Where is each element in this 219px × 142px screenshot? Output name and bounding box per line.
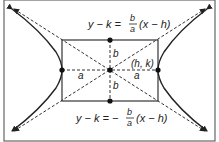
label-a-left: a <box>78 70 84 81</box>
upper-equation: y − k = b a (x − h) <box>87 13 171 34</box>
label-b-bottom: b <box>113 80 119 91</box>
lower-eq-rhs: (x − h) <box>136 112 168 124</box>
top-covertex <box>107 37 112 42</box>
lower-eq-num: b <box>127 107 132 117</box>
right-vertex <box>155 67 160 72</box>
left-branch <box>12 9 62 131</box>
label-b-top: b <box>113 48 119 59</box>
lower-equation: y − k = − b a (x − h) <box>75 107 168 128</box>
hyperbola-diagram: b b a a (h, k) y − k = b a (x − h) y − k… <box>0 0 219 142</box>
upper-eq-den: a <box>130 24 135 34</box>
lower-eq-lhs: y − k = − <box>75 112 119 124</box>
upper-eq-num: b <box>130 13 135 23</box>
left-vertex <box>59 67 64 72</box>
upper-eq-rhs: (x − h) <box>139 18 171 30</box>
center-point <box>107 67 112 72</box>
bottom-covertex <box>107 98 112 103</box>
lower-eq-den: a <box>127 118 132 128</box>
label-center: (h, k) <box>131 58 154 69</box>
upper-eq-lhs: y − k = <box>87 18 122 30</box>
label-a-right: a <box>134 70 140 81</box>
diagram-canvas: b b a a (h, k) y − k = b a (x − h) y − k… <box>0 0 219 142</box>
